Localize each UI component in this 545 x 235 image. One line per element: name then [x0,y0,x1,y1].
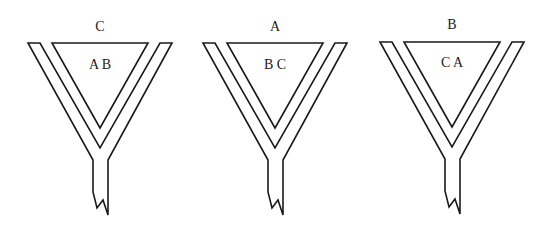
funnel-2: A B C [203,19,347,215]
diagram-canvas: C A B A B C B C A [0,0,545,235]
funnel-top-label: B [447,17,456,32]
funnel-inner-label: C A [441,55,464,70]
funnel-inner-triangle [227,43,323,128]
funnel-inner-triangle [52,43,148,128]
funnel-top-label: C [95,19,104,34]
funnel-inner-label: B C [264,57,286,72]
funnel-top-label: A [270,19,281,34]
funnel-1: C A B [28,19,172,215]
funnel-inner-label: A B [89,57,111,72]
funnel-3: B C A [380,17,524,214]
